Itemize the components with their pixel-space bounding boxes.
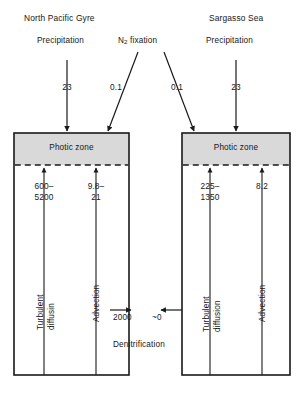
n2-fixation-suffix: fixation [128, 36, 158, 45]
left-td-value-line2: 5200 [34, 192, 53, 202]
right-turbulent-diffusion-label: Turbulent diffusion [202, 296, 223, 332]
right-td-value-line2: 1350 [200, 192, 219, 202]
left-adv-value-line1: 9.8– [88, 181, 105, 191]
left-denitrification-value: 2000 [113, 313, 132, 323]
right-precipitation-label: Precipitation [206, 36, 253, 46]
right-water-column-box [182, 133, 290, 375]
right-precipitation-value: 23 [226, 82, 246, 92]
right-td-label-line1: Turbulent [202, 296, 211, 332]
right-photic-zone-label: Photic zone [182, 143, 290, 153]
right-turbulent-diffusion-value: 225– 1350 [190, 181, 230, 203]
nitrogen-flux-diagram: North Pacific Gyre Precipitation 23 N2 f… [0, 0, 305, 394]
left-turbulent-diffusion-value: 600– 5200 [24, 181, 64, 203]
left-water-column-box [14, 133, 129, 375]
left-advection-label: Advection [92, 285, 103, 322]
left-photic-zone-label: Photic zone [14, 143, 129, 153]
denitrification-label: Denitrification [113, 340, 165, 350]
right-adv-value-line1: 8.2 [256, 181, 268, 191]
left-turbulent-diffusion-label: Turbulent diffusin [36, 294, 57, 330]
left-td-value-line1: 600– [34, 181, 53, 191]
left-advection-value: 9.8– 21 [78, 181, 114, 203]
right-denitrification-value: ~0 [152, 313, 162, 323]
left-td-label-line2: diffusin [47, 303, 56, 330]
left-n2-fixation-value: 0.1 [105, 82, 127, 92]
left-adv-value-line2: 21 [91, 192, 101, 202]
left-precipitation-value: 23 [57, 82, 77, 92]
right-td-value-line1: 225– [200, 181, 219, 191]
left-precipitation-label: Precipitation [37, 36, 84, 46]
right-advection-value: 8.2 [246, 181, 278, 192]
right-advection-label: Advection [258, 285, 269, 322]
right-td-label-line2: diffusion [213, 300, 222, 332]
left-td-label-line1: Turbulent [36, 294, 45, 330]
right-site-title: Sargasso Sea [209, 13, 263, 24]
right-n2-fixation-value: 0.1 [166, 82, 188, 92]
left-site-title: North Pacific Gyre [24, 13, 95, 24]
n2-fixation-label: N2 fixation [118, 36, 157, 46]
